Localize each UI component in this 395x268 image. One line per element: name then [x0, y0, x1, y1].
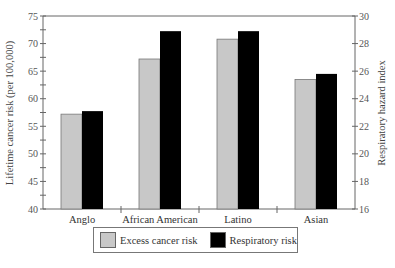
left-tick-label: 40 [28, 204, 38, 215]
bar-excess-cancer [139, 59, 160, 209]
legend-label: Respiratory risk [230, 235, 297, 246]
bar-respiratory [160, 31, 181, 209]
legend-item-excess-cancer: Excess cancer risk [100, 232, 198, 248]
category-label: African American [122, 214, 198, 225]
category-label: Asian [304, 214, 329, 225]
plot-area: 40455055606570751618202224262830AngloAfr… [28, 11, 369, 226]
bar-excess-cancer [295, 79, 316, 209]
left-tick-label: 60 [28, 93, 38, 104]
bar-respiratory [82, 111, 103, 209]
legend-swatch-black [210, 232, 226, 248]
legend-label: Excess cancer risk [120, 235, 198, 246]
right-tick-label: 24 [359, 93, 369, 104]
left-axis-title: Lifetime cancer risk (per 100,000) [4, 40, 16, 185]
right-tick-label: 16 [359, 204, 369, 215]
right-tick-label: 20 [359, 148, 369, 159]
right-axis-title: Respiratory hazard index [376, 59, 387, 165]
bar-respiratory [316, 74, 337, 209]
right-tick-label: 30 [359, 11, 369, 22]
legend-swatch-gray [100, 232, 116, 248]
bar-respiratory [238, 31, 259, 209]
category-label: Latino [224, 214, 251, 225]
left-tick-label: 65 [28, 66, 38, 77]
chart-legend: Excess cancer risk Respiratory risk [93, 227, 298, 253]
bar-excess-cancer [61, 114, 82, 209]
right-tick-label: 28 [359, 38, 369, 49]
right-tick-label: 18 [359, 176, 369, 187]
right-tick-label: 22 [359, 121, 369, 132]
left-tick-label: 50 [28, 148, 38, 159]
category-label: Anglo [69, 214, 95, 225]
bar-excess-cancer [217, 39, 238, 209]
right-tick-label: 26 [359, 66, 369, 77]
left-tick-label: 55 [28, 121, 38, 132]
legend-item-respiratory: Respiratory risk [210, 232, 297, 248]
left-tick-label: 45 [28, 176, 38, 187]
left-tick-label: 75 [28, 11, 38, 22]
left-tick-label: 70 [28, 38, 38, 49]
